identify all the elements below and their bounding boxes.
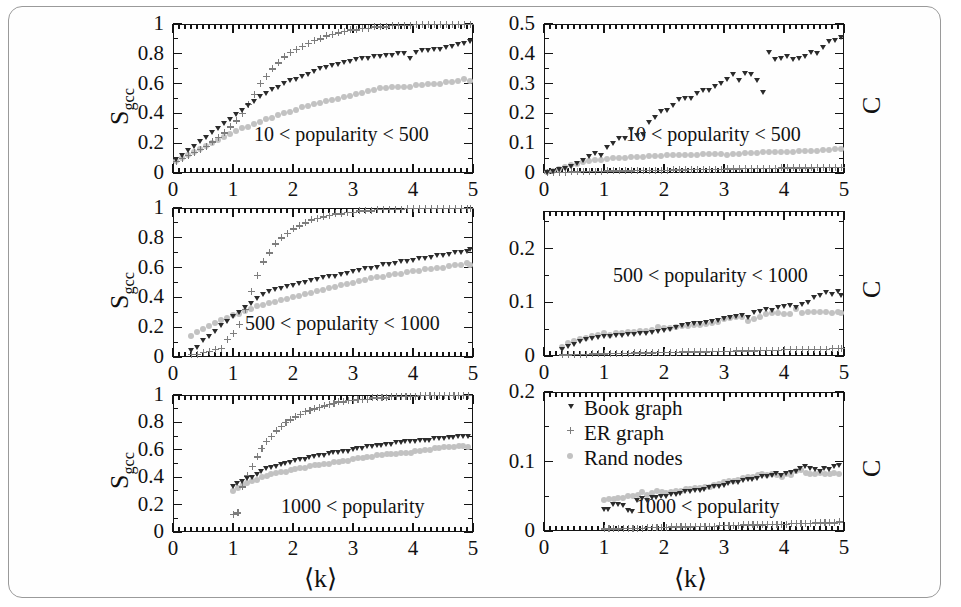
x-minor-tick-top — [448, 208, 449, 213]
x-minor-tick — [454, 352, 455, 357]
y-tick-label: 0.4 — [86, 466, 164, 487]
x-minor-tick-top — [633, 392, 634, 397]
x-minor-tick-top — [657, 24, 658, 29]
x-minor-tick-top — [705, 392, 706, 397]
x-minor-tick-top — [759, 24, 760, 29]
x-major-tick — [292, 348, 293, 357]
x-minor-tick — [448, 168, 449, 173]
x-tick-label: 2 — [268, 538, 318, 559]
x-minor-tick — [250, 352, 251, 357]
y-minor-tick-right — [468, 98, 473, 99]
x-minor-tick — [382, 168, 383, 173]
x-minor-tick-top — [418, 24, 419, 29]
x-minor-tick — [621, 526, 622, 531]
y-tick-label: 0.2 — [457, 381, 535, 402]
x-minor-tick-top — [250, 208, 251, 213]
x-minor-tick-top — [430, 395, 431, 400]
x-minor-tick — [609, 526, 610, 531]
x-minor-tick-top — [220, 395, 221, 400]
x-minor-tick — [328, 527, 329, 532]
panel-annotation: 10 < popularity < 500 — [626, 123, 801, 146]
x-minor-tick — [250, 527, 251, 532]
y-minor-tick-right — [839, 98, 844, 99]
legend-item-book-graph: Book graph — [584, 396, 683, 421]
x-minor-tick-top — [310, 24, 311, 29]
x-minor-tick-top — [741, 392, 742, 397]
x-major-tick — [172, 164, 173, 173]
x-minor-tick — [226, 168, 227, 173]
x-minor-tick — [711, 168, 712, 173]
x-minor-tick-top — [406, 395, 407, 400]
x-minor-tick — [615, 168, 616, 173]
x-minor-tick — [549, 526, 550, 531]
x-minor-tick-top — [687, 24, 688, 29]
x-tick-label: 2 — [639, 537, 689, 558]
x-minor-tick — [837, 351, 838, 356]
y-tick-label: 0.2 — [86, 494, 164, 515]
x-minor-tick — [573, 168, 574, 173]
x-minor-tick-top — [627, 211, 628, 216]
x-minor-tick — [585, 168, 586, 173]
x-minor-tick — [448, 527, 449, 532]
x-minor-tick — [729, 168, 730, 173]
y-major-tick-right — [464, 267, 473, 268]
x-minor-tick-top — [651, 211, 652, 216]
x-minor-tick-top — [244, 208, 245, 213]
x-minor-tick-top — [406, 208, 407, 213]
x-minor-tick-top — [549, 211, 550, 216]
x-minor-tick — [753, 526, 754, 531]
x-minor-tick-top — [256, 24, 257, 29]
x-minor-tick-top — [711, 211, 712, 216]
x-minor-tick-top — [448, 395, 449, 400]
x-minor-tick-top — [597, 24, 598, 29]
x-minor-tick — [795, 526, 796, 531]
x-major-tick-top — [172, 208, 173, 217]
x-minor-tick — [202, 352, 203, 357]
legend: Book graph ER graph Rand nodes — [544, 392, 844, 531]
x-major-tick-top — [412, 24, 413, 33]
x-minor-tick-top — [591, 392, 592, 397]
y-tick-label: 0.6 — [86, 257, 164, 278]
x-minor-tick — [549, 168, 550, 173]
x-minor-tick-top — [771, 24, 772, 29]
y-minor-tick-right — [839, 329, 844, 330]
x-minor-tick — [454, 527, 455, 532]
x-minor-tick-top — [466, 208, 467, 213]
x-minor-tick-top — [358, 208, 359, 213]
x-minor-tick — [376, 168, 377, 173]
x-minor-tick-top — [178, 208, 179, 213]
x-minor-tick — [430, 527, 431, 532]
x-minor-tick-top — [813, 392, 814, 397]
x-minor-tick-top — [340, 208, 341, 213]
x-minor-tick-top — [555, 211, 556, 216]
x-minor-tick — [657, 351, 658, 356]
x-minor-tick — [573, 351, 574, 356]
x-minor-tick-top — [322, 24, 323, 29]
x-minor-tick — [705, 168, 706, 173]
x-minor-tick-top — [460, 208, 461, 213]
x-major-tick-top — [232, 395, 233, 404]
x-minor-tick-top — [831, 392, 832, 397]
x-minor-tick-top — [388, 395, 389, 400]
x-minor-tick-top — [747, 392, 748, 397]
x-minor-tick — [382, 527, 383, 532]
x-minor-tick — [585, 526, 586, 531]
x-minor-tick-top — [268, 208, 269, 213]
x-minor-tick-top — [561, 392, 562, 397]
x-minor-tick — [280, 168, 281, 173]
x-minor-tick — [190, 168, 191, 173]
x-minor-tick-top — [819, 392, 820, 397]
x-minor-tick-top — [549, 24, 550, 29]
x-minor-tick — [813, 526, 814, 531]
x-minor-tick-top — [729, 392, 730, 397]
x-minor-tick — [286, 352, 287, 357]
x-minor-tick — [561, 351, 562, 356]
x-major-tick — [543, 164, 544, 173]
x-minor-tick-top — [442, 395, 443, 400]
x-minor-tick — [801, 526, 802, 531]
y-tick-label: 0.8 — [86, 411, 164, 432]
x-minor-tick — [645, 168, 646, 173]
x-minor-tick — [621, 168, 622, 173]
x-minor-tick — [190, 527, 191, 532]
y-tick-label: 0.8 — [86, 227, 164, 248]
